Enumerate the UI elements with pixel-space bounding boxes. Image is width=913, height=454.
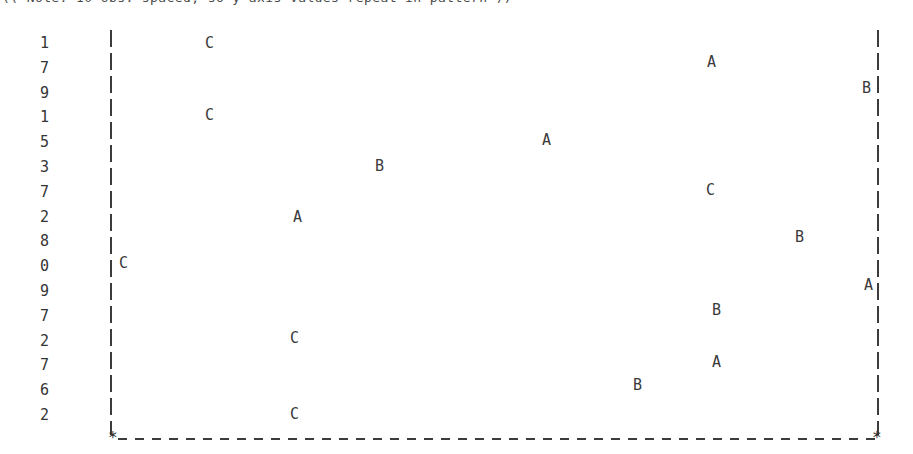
data-point-c: C (119, 256, 128, 271)
data-point-c: C (205, 108, 214, 123)
header-note: (( Note: 10 obs. spaced, so y-axis value… (2, 0, 512, 5)
y-axis-tick: 0 (27, 259, 49, 274)
x-axis-dashed-line (118, 438, 879, 440)
data-point-b: B (862, 81, 871, 96)
y-axis-tick: 7 (27, 61, 49, 76)
y-axis-tick: 7 (27, 358, 49, 373)
data-point-b: B (633, 378, 642, 393)
data-point-c: C (290, 407, 299, 422)
y-axis-tick: 9 (27, 86, 49, 101)
right-axis-rule (877, 30, 879, 435)
y-axis-tick: 1 (27, 110, 49, 125)
y-axis-tick: 6 (27, 383, 49, 398)
y-axis-tick: 7 (27, 309, 49, 324)
y-axis-tick: 8 (27, 234, 49, 249)
data-point-a: A (712, 355, 721, 370)
axis-start-marker: * (108, 430, 118, 446)
data-point-b: B (795, 230, 804, 245)
left-axis-rule (110, 30, 112, 435)
data-point-a: A (864, 278, 873, 293)
y-axis-tick: 7 (27, 185, 49, 200)
data-point-c: C (706, 183, 715, 198)
axis-end-marker: * (872, 430, 882, 446)
y-axis-tick: 2 (27, 408, 49, 423)
data-point-b: B (375, 159, 384, 174)
y-axis-tick: 1 (27, 36, 49, 51)
ascii-scatter-plot: (( Note: 10 obs. spaced, so y-axis value… (0, 0, 913, 454)
y-axis-tick: 2 (27, 210, 49, 225)
y-axis-tick: 2 (27, 334, 49, 349)
y-axis-tick: 9 (27, 284, 49, 299)
data-point-a: A (293, 210, 302, 225)
data-point-b: B (712, 303, 721, 318)
data-point-a: A (542, 133, 551, 148)
y-axis-tick: 5 (27, 135, 49, 150)
y-axis-tick: 3 (27, 160, 49, 175)
data-point-c: C (205, 36, 214, 51)
data-point-c: C (290, 331, 299, 346)
data-point-a: A (707, 55, 716, 70)
